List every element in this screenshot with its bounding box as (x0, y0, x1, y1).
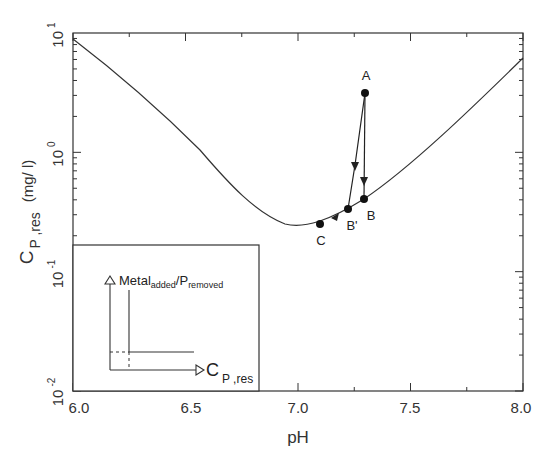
label-a: A (362, 68, 371, 83)
path-a-bprime-line (348, 93, 365, 209)
y-tick-label-10-minus1: 10-1 (46, 259, 66, 288)
inset-diagram: Metaladded/Premoved CP ,res (73, 245, 259, 391)
svg-text:10-2: 10-2 (46, 377, 66, 406)
label-b: B (367, 208, 376, 223)
x-tick-label-6-5: 6.5 (181, 399, 202, 416)
label-b-prime: B' (346, 218, 357, 233)
arrow-down-icon (351, 162, 359, 171)
y-tick-label-10-0: 100 (46, 141, 66, 167)
y-tick-label-10-minus2: 10-2 (46, 377, 66, 406)
inset-frame (73, 245, 259, 391)
solubility-curve (73, 39, 523, 225)
chart-svg: 101 100 10-1 10-2 6.0 6.5 7.0 7.5 8.0 pH… (0, 0, 551, 462)
point-b (360, 195, 368, 203)
arrow-left-icon (331, 213, 339, 221)
point-a (361, 89, 369, 97)
svg-text:100: 100 (46, 141, 66, 167)
x-tick-label-7-0: 7.0 (288, 399, 309, 416)
point-c (316, 220, 324, 228)
x-tick-label-7-5: 7.5 (400, 399, 421, 416)
svg-text:101: 101 (46, 22, 66, 48)
label-c: C (316, 233, 325, 248)
y-axis-title: CP ,res(mg/ l) (16, 160, 43, 265)
y-tick-label-10-1: 101 (46, 22, 66, 48)
arrow-down-icon (360, 177, 368, 186)
x-axis-title: pH (287, 428, 309, 447)
x-tick-label-6-0: 6.0 (69, 399, 90, 416)
svg-text:CP ,res(mg/ l): CP ,res(mg/ l) (16, 160, 43, 265)
svg-text:10-1: 10-1 (46, 259, 66, 288)
x-tick-label-8-0: 8.0 (511, 399, 532, 416)
point-b-prime (344, 205, 352, 213)
